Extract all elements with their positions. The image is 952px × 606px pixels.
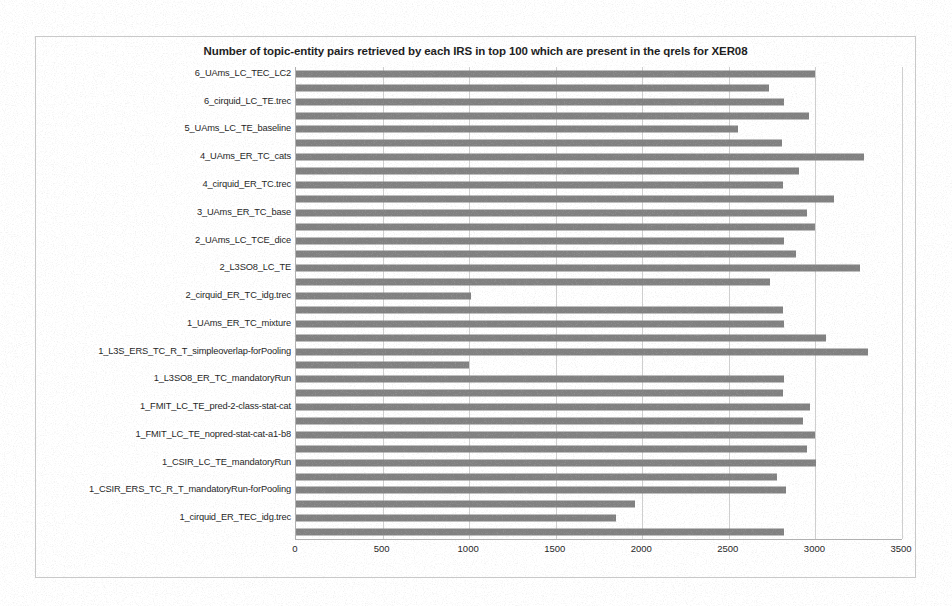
bar	[296, 237, 784, 244]
gridline	[556, 67, 557, 539]
gridline	[642, 67, 643, 539]
category-axis-label: 3_UAms_ER_TC_base	[197, 208, 291, 217]
category-axis-label: 2_UAms_LC_TCE_dice	[195, 236, 291, 245]
value-axis-tick-label: 2500	[717, 543, 738, 554]
gridline	[383, 67, 384, 539]
category-axis-label: 1_CSIR_LC_TE_mandatoryRun	[162, 458, 291, 467]
gridline	[729, 67, 730, 539]
bar	[296, 306, 783, 313]
bar	[296, 529, 784, 536]
value-axis-tick-label: 2000	[631, 543, 652, 554]
bar	[296, 362, 469, 369]
bar	[296, 376, 784, 383]
category-axis-label: 1_CSIR_ERS_TC_R_T_mandatoryRun-forPoolin…	[89, 486, 291, 495]
category-axis-label: 1_L3S_ERS_TC_R_T_simpleoverlap-forPoolin…	[98, 347, 291, 356]
category-axis-label: 2_L3SO8_LC_TE	[220, 264, 291, 273]
category-axis-label: 6_UAms_LC_TEC_LC2	[195, 69, 291, 78]
value-axis-tick-label: 1000	[458, 543, 479, 554]
bar	[296, 515, 616, 522]
gridline	[902, 67, 903, 539]
bar	[296, 168, 799, 175]
chart-title: Number of topic-entity pairs retrieved b…	[36, 45, 915, 57]
value-axis-tick-labels: 0500100015002000250030003500	[295, 543, 901, 563]
value-axis-tick-label: 500	[374, 543, 390, 554]
bar	[296, 404, 810, 411]
category-axis-label: 4_cirquid_ER_TC.trec	[203, 180, 291, 189]
bar	[296, 154, 864, 161]
bar	[296, 265, 860, 272]
gridline	[469, 67, 470, 539]
value-axis-tick-label: 1500	[544, 543, 565, 554]
bar	[296, 223, 815, 230]
category-axis-label: 4_UAms_ER_TC_cats	[200, 153, 291, 162]
bar	[296, 487, 786, 494]
bar	[296, 182, 783, 189]
value-axis-tick-label: 3000	[804, 543, 825, 554]
bar	[296, 251, 796, 258]
chart-container: Number of topic-entity pairs retrieved b…	[35, 36, 916, 578]
bar	[296, 445, 807, 452]
plot-wrapper: 6_UAms_LC_TEC_LC26_cirquid_LC_TE.trec5_U…	[36, 67, 917, 579]
bar	[296, 390, 783, 397]
bar	[296, 473, 777, 480]
bar	[296, 98, 784, 105]
bar	[296, 70, 815, 77]
bar	[296, 459, 816, 466]
category-axis-label: 1_L3SO8_ER_TC_mandatoryRun	[154, 375, 291, 384]
bar	[296, 112, 809, 119]
bar	[296, 279, 770, 286]
bar	[296, 209, 807, 216]
category-axis-label: 1_FMIT_LC_TE_nopred-stat-cat-a1-b8	[135, 430, 291, 439]
bar	[296, 418, 803, 425]
plot-area	[295, 67, 902, 540]
bar	[296, 431, 815, 438]
category-axis-label: 6_cirquid_LC_TE.trec	[204, 97, 291, 106]
value-axis-tick-label: 0	[292, 543, 297, 554]
value-axis-tick-label: 3500	[890, 543, 911, 554]
category-axis-label: 2_cirquid_ER_TC_idg.trec	[186, 291, 291, 300]
category-axis-label: 5_UAms_LC_TE_baseline	[185, 125, 291, 134]
bar	[296, 84, 769, 91]
bar	[296, 195, 834, 202]
category-axis-label: 1_cirquid_ER_TEC_idg.trec	[180, 514, 292, 523]
bar	[296, 320, 784, 327]
category-axis-label: 1_FMIT_LC_TE_pred-2-class-stat-cat	[140, 402, 291, 411]
bar	[296, 126, 738, 133]
gridline	[815, 67, 816, 539]
bar	[296, 501, 635, 508]
category-axis-label: 1_UAms_ER_TC_mixture	[187, 319, 291, 328]
bar	[296, 348, 868, 355]
bar	[296, 334, 826, 341]
bar	[296, 140, 782, 147]
bar	[296, 293, 471, 300]
category-axis-labels: 6_UAms_LC_TEC_LC26_cirquid_LC_TE.trec5_U…	[36, 67, 295, 539]
